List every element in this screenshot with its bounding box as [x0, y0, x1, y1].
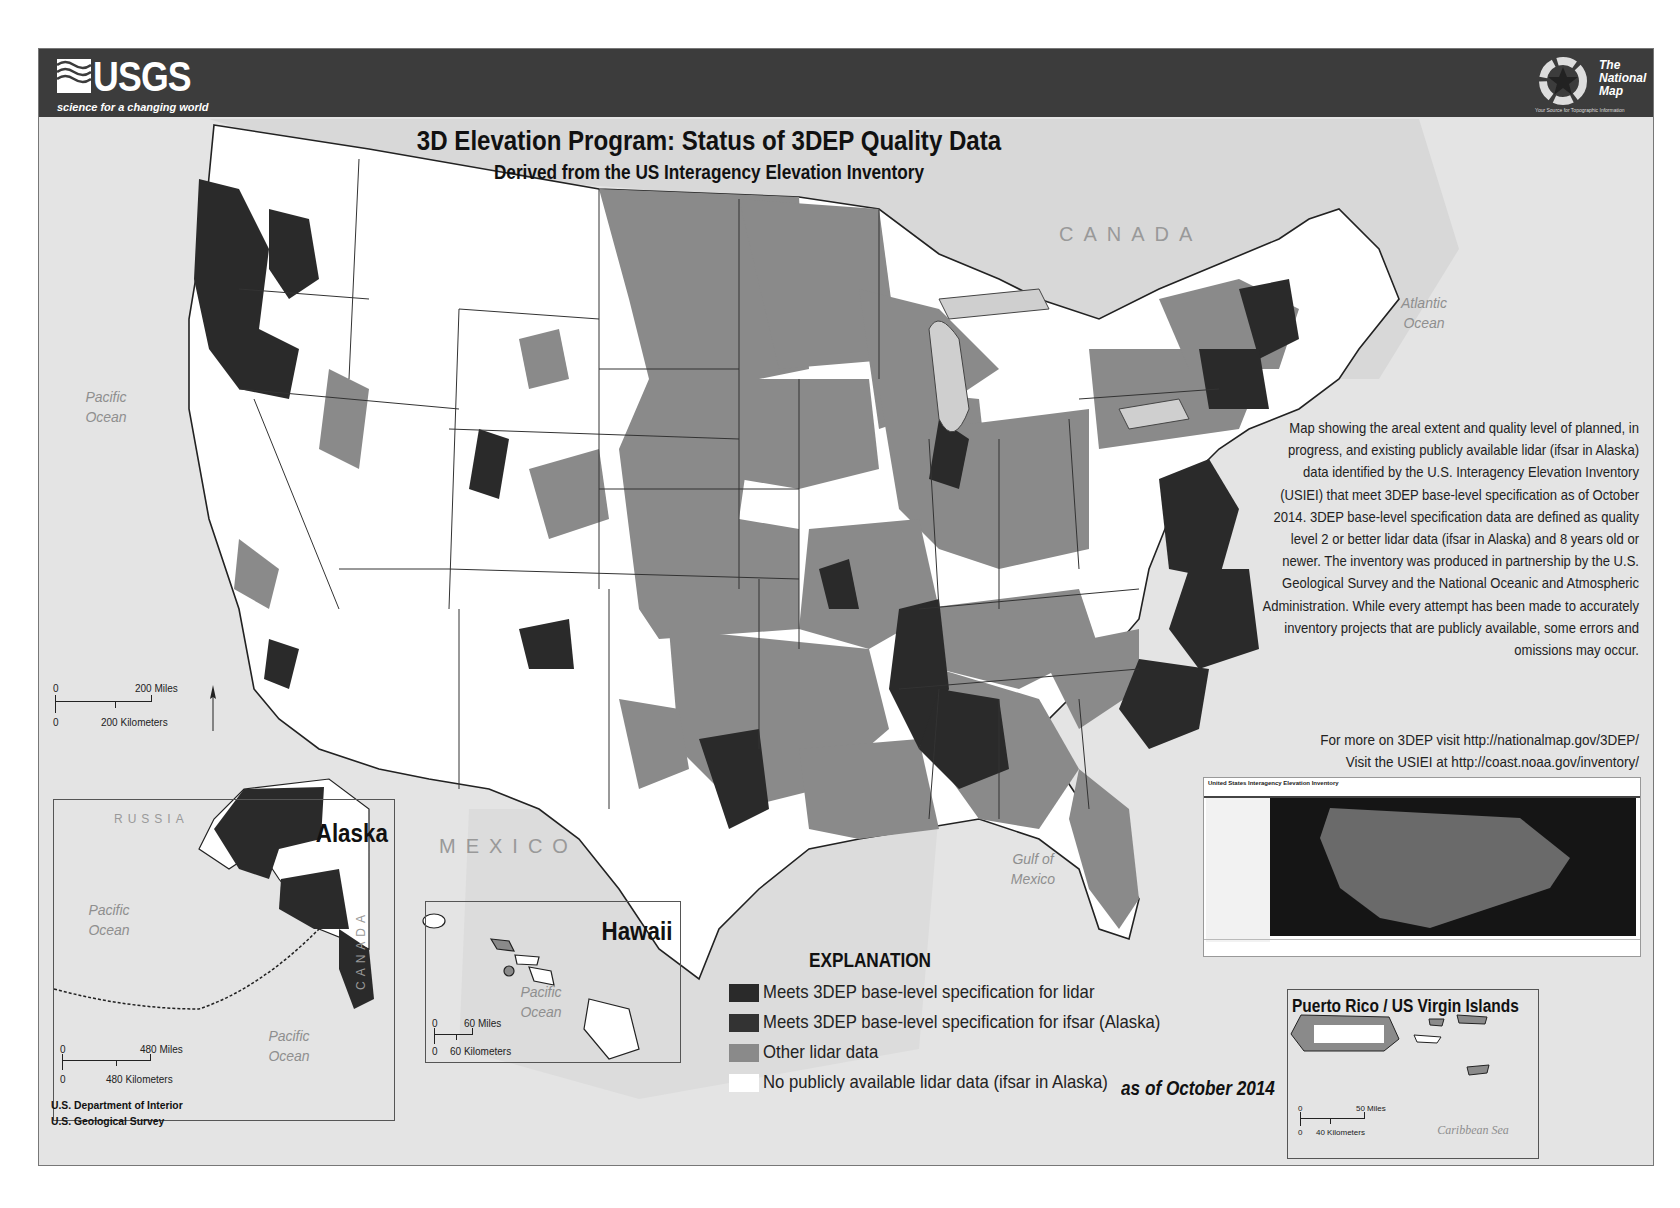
usiei-sidebar — [1206, 798, 1270, 942]
north-arrow-icon — [209, 685, 217, 731]
hawaii-scale-bar: 0 60 Miles 0 60 Kilometers — [432, 1018, 532, 1058]
label-gulf-of-mexico: Gulf of Mexico — [1003, 849, 1063, 889]
label-pacific-alaska-2: Pacific Ocean — [264, 1026, 314, 1066]
label-russia: RUSSIA — [114, 812, 189, 826]
footer-agency: U.S. Department of Interior U.S. Geologi… — [51, 1097, 183, 1129]
swatch-no-data — [729, 1074, 759, 1092]
swatch-meets-lidar — [729, 984, 759, 1002]
label-pacific-alaska-1: Pacific Ocean — [84, 900, 134, 940]
link-usiei[interactable]: Visit the USIEI at http://coast.noaa.gov… — [1243, 751, 1639, 773]
main-scale-bar: 0 200 Miles 0 200 Kilometers — [53, 683, 223, 733]
alaska-inset: Alaska RUSSIA CANADA Pacific Ocean Pacif… — [53, 799, 395, 1121]
map-title: 3D Elevation Program: Status of 3DEP Qua… — [133, 125, 1285, 157]
as-of-date: as of October 2014 — [1121, 1077, 1275, 1100]
label-atlantic-ocean: Atlantic Ocean — [1394, 293, 1454, 333]
swatch-other-lidar — [729, 1044, 759, 1062]
legend-title: EXPLANATION — [809, 949, 931, 972]
puerto-rico-title: Puerto Rico / US Virgin Islands — [1292, 996, 1519, 1017]
more-info-links: For more on 3DEP visit http://nationalma… — [1243, 729, 1639, 773]
puerto-rico-scale-bar: 0 50 Miles 0 40 Kilometers — [1298, 1104, 1398, 1144]
label-mexico: MEXICO — [439, 835, 578, 858]
map-description: Map showing the areal extent and quality… — [1261, 417, 1639, 661]
label-canada-alaska: CANADA — [354, 910, 368, 990]
label-pacific-ocean: Pacific Ocean — [81, 387, 131, 427]
alaska-scale-bar: 0 480 Miles 0 480 Kilometers — [60, 1044, 190, 1088]
usiei-footer-table — [1204, 939, 1640, 956]
puerto-rico-inset: Puerto Rico / US Virgin Islands Caribbea… — [1287, 989, 1539, 1159]
hawaii-inset: Hawaii Pacific Ocean 0 60 Miles 0 60 Kil… — [425, 901, 681, 1063]
usiei-header: United States Interagency Elevation Inve… — [1204, 778, 1640, 798]
swatch-meets-ifsar — [729, 1014, 759, 1032]
usiei-screenshot: United States Interagency Elevation Inve… — [1203, 777, 1641, 957]
alaska-title: Alaska — [316, 818, 388, 849]
link-3dep[interactable]: For more on 3DEP visit http://nationalma… — [1243, 729, 1639, 751]
map-subtitle: Derived from the US Interagency Elevatio… — [133, 161, 1285, 184]
label-caribbean-sea: Caribbean Sea — [1418, 1120, 1528, 1140]
hawaii-title: Hawaii — [601, 916, 672, 947]
label-canada: CANADA — [1059, 223, 1202, 246]
usiei-map-view — [1270, 798, 1636, 936]
legend: EXPLANATION Meets 3DEP base-level specif… — [729, 949, 951, 972]
label-pacific-hawaii: Pacific Ocean — [516, 982, 566, 1022]
map-sheet: USGS science for a changing world The Na… — [38, 48, 1654, 1166]
